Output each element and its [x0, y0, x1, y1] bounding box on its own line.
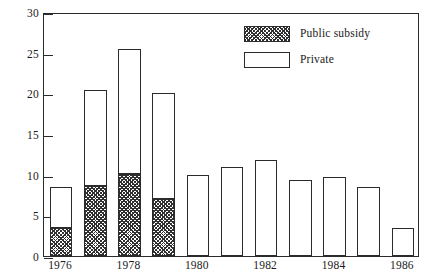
bar-1986	[392, 228, 415, 256]
bar-segment-private	[152, 93, 175, 200]
y-axis-tick	[44, 177, 53, 178]
bar-1977	[84, 90, 107, 256]
bar-segment-private	[392, 228, 415, 256]
bar-segment-private	[50, 187, 73, 228]
bar-segment-private	[323, 177, 346, 256]
y-axis-tick	[44, 55, 53, 56]
x-axis-tick-label: 1984	[322, 260, 346, 272]
bar-1979	[152, 93, 175, 256]
x-axis-tick-label: 1978	[117, 260, 141, 272]
chart-legend: Public subsidy Private	[244, 24, 370, 76]
bar-segment-private	[187, 175, 210, 256]
y-axis-tick-label: 30	[27, 8, 39, 20]
bar-1980	[187, 175, 210, 256]
y-axis-tick-label: 25	[27, 49, 39, 61]
x-axis-tick-label: 1980	[185, 260, 209, 272]
bar-segment-public-subsidy	[118, 174, 141, 256]
bar-chart: 051015202530 197619781980198219841986 Pu…	[0, 0, 431, 279]
bar-segment-private	[357, 187, 380, 256]
hatched-swatch-icon	[244, 26, 290, 42]
legend-label-private: Private	[300, 54, 334, 66]
open-swatch-icon	[244, 52, 290, 68]
y-axis-tick	[44, 95, 53, 96]
x-axis-tick-label: 1982	[253, 260, 277, 272]
bar-1984	[323, 177, 346, 256]
bar-segment-private	[84, 90, 107, 186]
y-axis-tick-label: 15	[27, 130, 39, 142]
x-axis-tick-label: 1976	[48, 260, 72, 272]
legend-item-private: Private	[244, 50, 370, 70]
bar-1982	[255, 160, 278, 256]
y-axis-tick-label: 0	[33, 252, 39, 264]
y-axis-tick	[44, 14, 53, 15]
bar-segment-private	[289, 180, 312, 256]
bar-segment-private	[255, 160, 278, 256]
bar-segment-public-subsidy	[50, 228, 73, 256]
bar-segment-public-subsidy	[84, 186, 107, 256]
bar-1983	[289, 180, 312, 256]
bar-segment-private	[118, 49, 141, 174]
y-axis-tick-label: 20	[27, 90, 39, 102]
bar-1976	[50, 187, 73, 256]
bar-1978	[118, 49, 141, 256]
bar-segment-public-subsidy	[152, 199, 175, 256]
y-axis-tick-label: 10	[27, 171, 39, 183]
legend-label-public-subsidy: Public subsidy	[300, 28, 370, 40]
x-axis-tick-label: 1986	[390, 260, 414, 272]
y-axis-tick	[44, 136, 53, 137]
bar-1985	[357, 187, 380, 256]
bar-1981	[221, 167, 244, 256]
legend-item-public-subsidy: Public subsidy	[244, 24, 370, 44]
bar-segment-private	[221, 167, 244, 256]
y-axis-tick-label: 5	[33, 212, 39, 224]
